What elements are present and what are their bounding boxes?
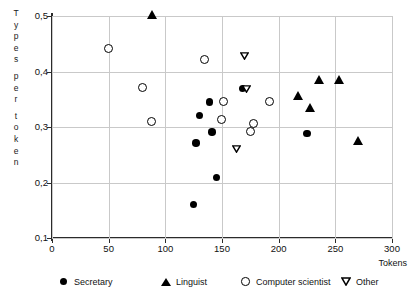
data-point-filled-circle xyxy=(190,201,198,209)
data-point-filled-triangle xyxy=(305,103,315,112)
data-point-filled-triangle xyxy=(147,10,157,19)
data-point-filled-circle xyxy=(192,139,200,147)
data-point-open-circle xyxy=(217,115,226,124)
legend-item[interactable]: Computer scientist xyxy=(240,276,331,287)
data-point-filled-triangle xyxy=(293,91,303,100)
x-axis-tick-label: 100 xyxy=(145,243,185,254)
x-axis-tick-label: 150 xyxy=(202,243,242,254)
x-axis-tick-label: 50 xyxy=(89,243,129,254)
data-point-open-circle xyxy=(246,127,255,136)
gridline-vertical xyxy=(52,16,53,238)
data-point-filled-triangle xyxy=(353,136,363,145)
x-axis-label: Tokens xyxy=(378,258,407,268)
data-point-open-circle xyxy=(200,55,209,64)
x-axis-tick-label: 200 xyxy=(259,243,299,254)
legend-open-circle-icon xyxy=(240,276,251,287)
y-axis-tick-label: 0,1 xyxy=(4,232,48,243)
x-axis-tick-label: 0 xyxy=(32,243,72,254)
x-axis-tick-label: 250 xyxy=(315,243,355,254)
scatter-chart: Typespertoken 0,10,20,30,40,5 0501001502… xyxy=(0,0,413,304)
x-axis-tick-label: 300 xyxy=(372,243,412,254)
legend-item[interactable]: Secretary xyxy=(58,276,113,287)
legend-filled-circle-icon xyxy=(58,276,69,287)
data-point-filled-triangle xyxy=(314,75,324,84)
y-axis-tick-label: 0,5 xyxy=(4,10,48,21)
data-point-open-triangle xyxy=(232,145,241,153)
legend-filled-triangle-icon xyxy=(160,276,171,287)
data-point-filled-circle xyxy=(196,112,204,120)
gridline-vertical xyxy=(392,16,393,238)
data-point-open-circle xyxy=(265,97,274,106)
legend-item-label: Linguist xyxy=(176,277,207,287)
data-point-filled-circle xyxy=(213,174,221,182)
y-axis-tick-label: 0,2 xyxy=(4,177,48,188)
data-point-open-circle xyxy=(219,97,228,106)
y-axis-tick-labels: 0,10,20,30,40,5 xyxy=(0,0,48,304)
gridline-vertical xyxy=(222,16,223,238)
data-point-filled-triangle xyxy=(334,75,344,84)
legend-item[interactable]: Other xyxy=(340,276,379,287)
legend-item[interactable]: Linguist xyxy=(160,276,207,287)
gridline-horizontal xyxy=(52,238,393,239)
data-point-open-triangle xyxy=(240,52,249,60)
legend-item-label: Secretary xyxy=(74,277,113,287)
plot-area xyxy=(52,16,392,238)
gridline-vertical xyxy=(335,16,336,238)
legend-open-triangle-icon xyxy=(340,276,351,287)
legend-item-label: Computer scientist xyxy=(256,277,331,287)
y-axis-tick-label: 0,4 xyxy=(4,66,48,77)
gridline-vertical xyxy=(165,16,166,238)
data-point-filled-circle xyxy=(208,128,216,136)
data-point-open-circle xyxy=(147,117,156,126)
legend-item-label: Other xyxy=(356,277,379,287)
data-point-filled-circle xyxy=(206,98,214,106)
data-point-open-triangle xyxy=(242,85,251,93)
data-point-filled-circle xyxy=(303,130,311,138)
data-point-open-circle xyxy=(104,44,113,53)
y-axis-tick-label: 0,3 xyxy=(4,121,48,132)
gridline-vertical xyxy=(279,16,280,238)
data-point-open-circle xyxy=(249,119,258,128)
data-point-open-circle xyxy=(138,83,147,92)
chart-legend: SecretaryLinguistComputer scientistOther xyxy=(0,276,413,296)
